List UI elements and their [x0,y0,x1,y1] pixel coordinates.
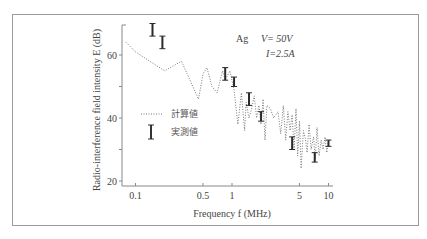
axes: 2040600.10.51510 [107,25,334,201]
x-tick-label: 1 [230,190,235,201]
x-axis-title: Frequency f (MHz) [193,208,271,220]
x-tick-label: 5 [297,190,302,201]
y-tick-label: 40 [107,113,117,124]
calculated-line [126,42,328,168]
measured-series [149,24,331,163]
annotations: Ag V= 50V I=2.5A [236,33,296,59]
x-tick-label: 0.5 [197,190,210,201]
y-tick-label: 60 [107,50,117,61]
error-bar [149,24,155,37]
x-tick-label: 10 [324,190,334,201]
legend-error-bar-icon [148,125,154,139]
error-bar [312,153,318,162]
y-tick-label: 20 [107,176,117,187]
error-bar [326,140,332,146]
material-annotation: Ag [236,33,248,44]
calculated-series [126,42,328,168]
legend-label-measured: 実測値 [171,126,198,137]
error-bar [246,93,252,106]
current-annotation: I=2.5A [265,48,296,59]
error-bar [159,36,165,49]
chart: 2040600.10.51510 計算値 実測値 Ag V= 50V I=2.5… [0,0,427,239]
legend-label-calculated: 計算値 [171,108,198,119]
y-axis-title: Radio-interference field intensity E (dB… [91,29,103,191]
x-tick-label: 0.1 [129,190,142,201]
legend: 計算値 実測値 [141,108,198,139]
voltage-annotation: V= 50V [261,33,294,44]
error-bar [258,112,264,121]
